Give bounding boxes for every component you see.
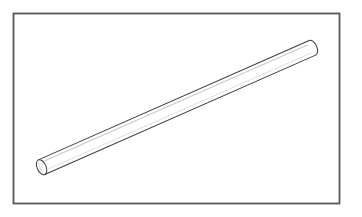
technical-drawing-canvas (0, 0, 362, 217)
figure-root (0, 0, 362, 217)
